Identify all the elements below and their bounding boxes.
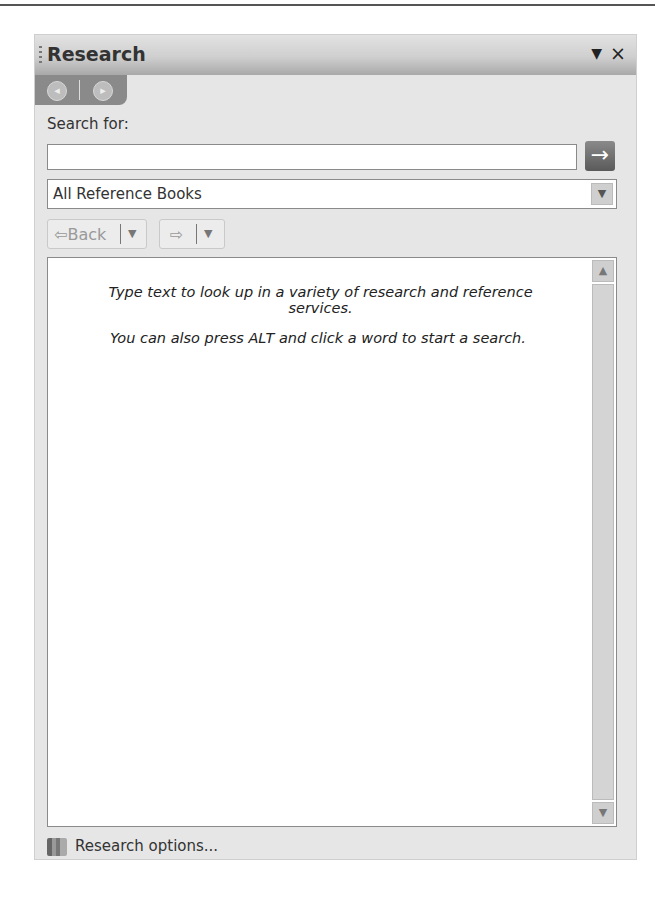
scroll-thumb[interactable] [592, 284, 614, 800]
pane-back-icon[interactable]: ◂ [47, 81, 67, 101]
back-label: ⇦Back [54, 225, 106, 244]
scroll-down-icon[interactable]: ▼ [592, 802, 614, 824]
forward-dropdown-icon[interactable]: ▼ [204, 227, 212, 240]
selected-source: All Reference Books [53, 185, 202, 203]
pane-forward-icon[interactable]: ▸ [93, 81, 113, 101]
close-icon[interactable]: × [610, 42, 626, 64]
separator [120, 224, 121, 244]
grip-handle-icon[interactable] [39, 46, 42, 66]
back-dropdown-icon[interactable]: ▼ [128, 227, 136, 240]
reference-source-select[interactable]: All Reference Books ▼ [47, 179, 617, 209]
forward-label: ⇨ [170, 225, 183, 244]
alt-click-hint: You can also press ALT and click a word … [48, 330, 588, 346]
search-input[interactable] [47, 144, 577, 170]
results-area: Type text to look up in a variety of res… [47, 257, 617, 827]
hint-message: Type text to look up in a variety of res… [48, 284, 593, 316]
chevron-down-icon[interactable]: ▼ [591, 183, 613, 205]
search-label: Search for: [47, 115, 129, 133]
start-search-button[interactable]: → [585, 141, 615, 171]
pane-nav-tab: ◂ ▸ [35, 75, 127, 105]
pane-menu-icon[interactable]: ▼ [591, 45, 602, 61]
vertical-scrollbar[interactable]: ▲ ▼ [592, 260, 614, 824]
research-pane: Research ▼ × ◂ ▸ Search for: → All Refer… [34, 34, 637, 860]
separator [196, 224, 197, 244]
pane-titlebar[interactable]: Research ▼ × [35, 35, 636, 75]
forward-button[interactable]: ⇨ ▼ [159, 219, 225, 249]
research-options-link[interactable]: Research options... [47, 837, 218, 856]
scroll-up-icon[interactable]: ▲ [592, 260, 614, 282]
window-edge [0, 4, 655, 6]
research-options-label: Research options... [75, 837, 218, 855]
research-options-icon [47, 838, 67, 856]
separator [79, 80, 80, 100]
pane-title: Research [47, 43, 146, 65]
back-button[interactable]: ⇦Back ▼ [47, 219, 147, 249]
